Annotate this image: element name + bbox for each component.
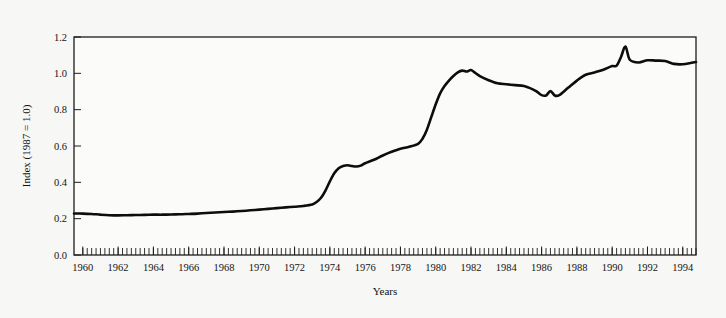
x-axis-tick-label: 1988 <box>566 262 587 273</box>
y-axis-tick-label: 0.4 <box>54 177 68 188</box>
x-axis-tick-label: 1964 <box>143 262 165 273</box>
x-axis-tick-label: 1966 <box>178 262 199 273</box>
x-axis-tick-label: 1992 <box>637 262 658 273</box>
x-axis-tick-label: 1970 <box>249 262 270 273</box>
x-axis-tick-label: 1968 <box>213 262 234 273</box>
y-axis-tick-label: 0.8 <box>54 104 67 115</box>
x-axis-tick-label: 1972 <box>284 262 305 273</box>
chart-figure: 0.00.20.40.60.81.01.2 196019621964196619… <box>0 0 726 318</box>
y-axis-tick-label: 0.6 <box>54 141 67 152</box>
y-axis-tick-label: 1.0 <box>54 68 67 79</box>
x-axis-tick-label: 1976 <box>355 262 376 273</box>
y-axis-label: Index (1987 = 1.0) <box>20 104 33 187</box>
x-axis-tick-label: 1980 <box>425 262 446 273</box>
x-axis-tick-label: 1984 <box>496 262 518 273</box>
x-axis-tick-label: 1978 <box>390 262 411 273</box>
y-axis-tick-label: 1.2 <box>54 32 67 43</box>
x-axis-tick-label: 1974 <box>319 262 341 273</box>
x-axis-tick-label: 1960 <box>72 262 93 273</box>
x-axis-label: Years <box>373 285 398 297</box>
y-axis-tick-label: 0.2 <box>54 213 67 224</box>
chart-canvas: 0.00.20.40.60.81.01.2 196019621964196619… <box>0 0 726 318</box>
x-axis-tick-label: 1986 <box>531 262 552 273</box>
x-axis-tick-label: 1982 <box>461 262 482 273</box>
x-axis-tick-label: 1962 <box>108 262 129 273</box>
x-axis-tick-label: 1990 <box>602 262 623 273</box>
y-axis-tick-label: 0.0 <box>54 250 67 261</box>
x-axis-tick-label: 1994 <box>672 262 694 273</box>
